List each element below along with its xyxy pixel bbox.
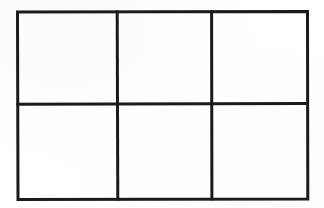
grid-figure	[0, 0, 324, 208]
grid-cell-r1-c1[interactable]	[19, 13, 115, 102]
grid-cell-r2-c2[interactable]	[120, 107, 208, 198]
grid-cell-r1-c3[interactable]	[214, 13, 306, 102]
image-canvas	[0, 0, 324, 208]
grid-cell-r1-c2[interactable]	[120, 13, 208, 102]
grid-cell-r2-c1[interactable]	[19, 107, 115, 198]
grid-drawing	[0, 0, 324, 208]
grid-horizontal-divider-1	[18, 104, 308, 105]
grid-cell-r2-c3[interactable]	[214, 107, 306, 198]
grid-vertical-divider-1	[117, 12, 118, 199]
